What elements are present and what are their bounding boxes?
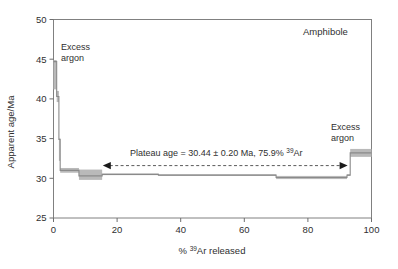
x-axis-ticks: 020406080100 <box>51 218 380 235</box>
age-spectrum-step-line <box>54 62 372 178</box>
y-tick-label: 40 <box>36 93 47 104</box>
y-tick-label: 45 <box>36 54 47 65</box>
x-axis-title: % 39Ar released <box>179 245 246 257</box>
plot-frame <box>54 20 372 219</box>
excess-argon-right-line2: argon <box>331 133 354 143</box>
excess-argon-left-line1: Excess <box>61 42 91 52</box>
excess-argon-left-line2: argon <box>61 53 84 63</box>
x-tick-label: 100 <box>364 224 380 235</box>
step-error-boxes <box>54 60 372 180</box>
plateau-indicator <box>103 162 348 169</box>
x-axis-title-suffix: Ar released <box>197 245 246 256</box>
excess-argon-left-annotation: Excess argon <box>61 42 91 63</box>
y-tick-label: 50 <box>36 14 47 25</box>
x-axis-title-prefix: % <box>179 245 190 256</box>
age-spectrum-figure: 253035404550 020406080100 Apparent age/M… <box>0 0 398 269</box>
plateau-arrow-left-icon <box>103 162 111 169</box>
x-tick-label: 0 <box>51 224 56 235</box>
excess-argon-right-line1: Excess <box>331 122 361 132</box>
y-axis-ticks: 253035404550 <box>36 14 54 224</box>
x-tick-label: 40 <box>175 224 186 235</box>
y-axis-title: Apparent age/Ma <box>5 95 16 169</box>
plateau-arrow-right-icon <box>340 162 348 169</box>
x-tick-label: 20 <box>112 224 123 235</box>
age-spectrum-chart: 253035404550 020406080100 Apparent age/M… <box>0 0 398 269</box>
plateau-text-prefix: Plateau age = 30.44 ± 0.20 Ma, 75.9% <box>130 148 286 158</box>
y-tick-label: 25 <box>36 212 47 223</box>
step-error-box <box>79 170 102 180</box>
y-tick-label: 35 <box>36 133 47 144</box>
y-tick-label: 30 <box>36 173 47 184</box>
excess-argon-right-annotation: Excess argon <box>331 122 361 143</box>
x-tick-label: 80 <box>303 224 314 235</box>
plateau-age-label: Plateau age = 30.44 ± 0.20 Ma, 75.9% 39A… <box>130 147 303 159</box>
plateau-text-suffix: Ar <box>294 148 303 158</box>
sample-label: Amphibole <box>303 26 348 37</box>
x-tick-label: 60 <box>239 224 250 235</box>
